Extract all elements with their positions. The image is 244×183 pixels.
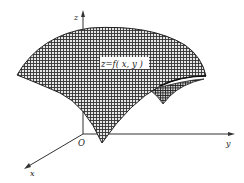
x-axis-label: x (30, 169, 35, 178)
z-axis-arrow-icon (81, 10, 85, 17)
z-axis-label: z (73, 13, 79, 22)
x-axis (27, 134, 83, 167)
y-axis-arrow-icon (228, 132, 235, 136)
surface-label: z=f( x, y ) (100, 59, 143, 69)
origin-label: O (78, 138, 85, 148)
y-axis-label: y (225, 139, 231, 148)
surface-diagram: z=f( x, y ) z y x O (0, 0, 244, 183)
